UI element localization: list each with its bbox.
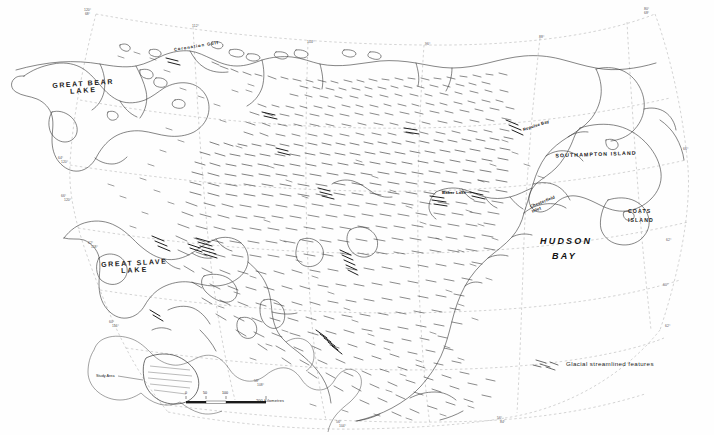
coats-island-line1: COATS [628, 208, 654, 214]
graticule-label-66-120: 66° 120° [61, 194, 71, 202]
grat-line2: 120° [61, 160, 68, 164]
graticule-label-56-104: 56° 104° [336, 420, 346, 428]
grat-line2: 108° [257, 383, 264, 387]
label-hudson-bay: HUDSON BAY [540, 236, 592, 261]
grat-line2: 68° [84, 12, 91, 16]
grat-line2: 84° [500, 420, 505, 424]
grat-line2: 116° [112, 324, 119, 328]
graticule-label-56-84: 56° 84° [497, 416, 505, 424]
grat-line2: 68° [644, 11, 649, 15]
graticule-label-60-hudson: 60° [663, 283, 668, 287]
grat-line2: 118° [91, 245, 98, 249]
graticule-label-120-68: 120° 68° [84, 8, 91, 16]
label-baker-lake: Baker Lake [442, 190, 466, 195]
graticule-label-88-top: 88° [539, 35, 544, 39]
graticule-label-62-right: 62° [666, 238, 671, 242]
scale-tick-50: 50 [203, 391, 207, 395]
map-canvas: GREAT BEAR LAKE GREAT SLAVE LAKE HUDSON … [0, 0, 714, 435]
graticule-label-66-right: 66° [683, 147, 688, 151]
legend-label: Glacial streamlined features [566, 360, 654, 367]
inset-study-area-label: Study Area [96, 374, 115, 378]
graticule-label-60-116: 60° 116° [109, 320, 119, 328]
graticule-label-62-hudson: 62° [665, 324, 670, 328]
graticule-label-96-top: 96° [425, 42, 430, 46]
coats-island-line2: ISLAND [628, 217, 654, 223]
hudson-bay-line2: BAY [552, 251, 592, 261]
scale-tick-100: 100 [222, 391, 228, 395]
label-coats-island: COATS ISLAND [628, 208, 654, 223]
grat-line2: 120° [64, 198, 71, 202]
graticule-label-58-108: 58° 108° [254, 379, 264, 387]
hudson-bay-line1: HUDSON [540, 236, 592, 246]
graticule-label-112: 112° [192, 24, 199, 28]
graticule-label-104-top: 104° [307, 40, 314, 44]
graticule-label-64-120: 64° 120° [58, 156, 68, 164]
graticule-label-80-68: 80° 68° [644, 7, 649, 15]
scale-tick-0: 0 [185, 391, 187, 395]
graticule-label-62-118: 62° 118° [88, 241, 98, 249]
scale-bar-graphic [0, 0, 714, 435]
scale-unit-label: 200 Kilometres [256, 399, 284, 403]
grat-line2: 104° [339, 424, 346, 428]
